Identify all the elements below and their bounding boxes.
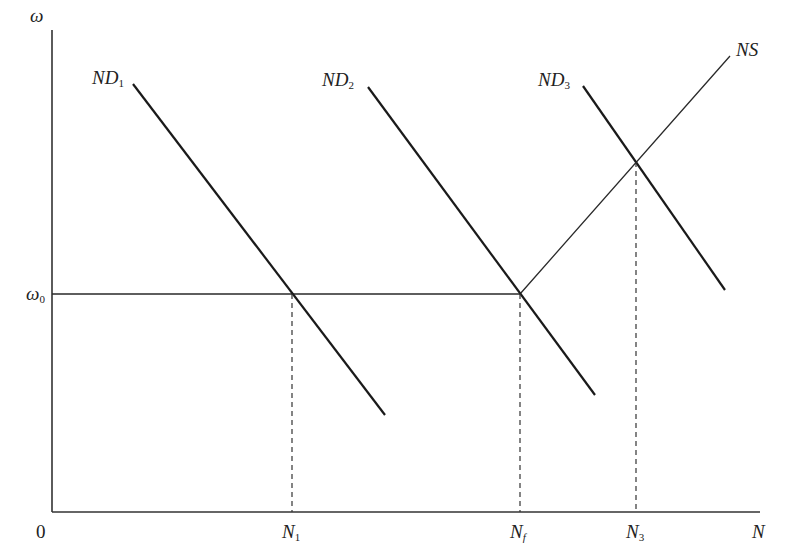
n3-label: N3 bbox=[626, 522, 644, 543]
nd1-sub: 1 bbox=[118, 77, 124, 89]
ns-label: NS bbox=[736, 40, 758, 59]
y-axis-label: ω bbox=[30, 6, 43, 25]
nd2-sub: 2 bbox=[348, 79, 354, 91]
nd2-curve bbox=[368, 87, 595, 395]
n1-main: N bbox=[282, 521, 295, 542]
nd1-curve bbox=[133, 84, 385, 415]
nd1-main: ND bbox=[92, 67, 118, 88]
nd3-main: ND bbox=[538, 69, 564, 90]
omega0-sub: 0 bbox=[39, 293, 45, 305]
omega0-main: ω bbox=[26, 283, 39, 304]
n3-main: N bbox=[626, 521, 639, 542]
nd1-label: ND1 bbox=[92, 68, 124, 89]
n1-label: N1 bbox=[282, 522, 300, 543]
nd3-label: ND3 bbox=[538, 70, 570, 91]
x-axis-label: N bbox=[752, 522, 765, 541]
nd3-sub: 3 bbox=[564, 79, 570, 91]
nd3-curve bbox=[583, 86, 725, 290]
n3-sub: 3 bbox=[639, 531, 645, 543]
n1-sub: 1 bbox=[295, 531, 301, 543]
nf-main: N bbox=[510, 521, 523, 542]
nd2-label: ND2 bbox=[322, 70, 354, 91]
nf-label: Nf bbox=[510, 522, 526, 543]
ns-curve bbox=[52, 56, 730, 294]
omega0-label: ω0 bbox=[26, 284, 45, 305]
nf-sub: f bbox=[523, 531, 526, 543]
nd2-main: ND bbox=[322, 69, 348, 90]
origin-label: 0 bbox=[36, 522, 46, 541]
